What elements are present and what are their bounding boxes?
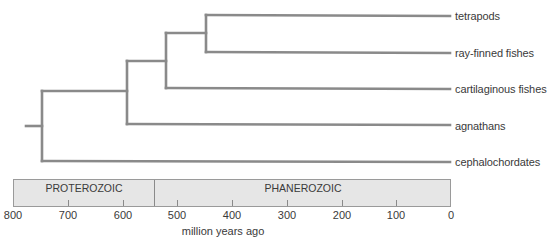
tick-label-400: 400 [223, 209, 241, 221]
geologic-timeline-bar: PROTEROZOIC PHANEROZOIC [13, 179, 451, 207]
tick-label-700: 700 [59, 209, 77, 221]
tick-200 [342, 200, 343, 206]
tick-600 [123, 200, 124, 206]
branch-cartilaginous-fishes [166, 88, 450, 89]
tick-label-600: 600 [114, 209, 132, 221]
branch-tetrapods [206, 15, 450, 16]
tick-label-0: 0 [448, 209, 454, 221]
tick-label-800: 800 [4, 209, 22, 221]
branch-cephalochordates [42, 161, 450, 162]
tick-300 [287, 200, 288, 206]
x-axis-label: million years ago [182, 225, 265, 237]
tick-700 [68, 200, 69, 206]
taxon-label-cephalochordates: cephalochordates [455, 156, 540, 168]
tick-400 [232, 200, 233, 206]
branch-agnathans [127, 124, 450, 125]
era-phanerozoic: PHANEROZOIC [155, 180, 451, 206]
taxon-label-cartilaginous-fishes: cartilaginous fishes [455, 83, 547, 95]
era-proterozoic: PROTEROZOIC [14, 180, 154, 206]
tick-label-300: 300 [278, 209, 296, 221]
tick-500 [177, 200, 178, 206]
tick-label-100: 100 [387, 209, 405, 221]
tick-100 [396, 200, 397, 206]
branch-ray-finned-fishes [206, 52, 450, 53]
taxon-label-agnathans: agnathans [455, 120, 505, 132]
taxon-label-tetrapods: tetrapods [455, 10, 500, 22]
taxon-label-ray-finned-fishes: ray-finned fishes [455, 47, 534, 59]
tick-label-200: 200 [333, 209, 351, 221]
tick-label-500: 500 [168, 209, 186, 221]
